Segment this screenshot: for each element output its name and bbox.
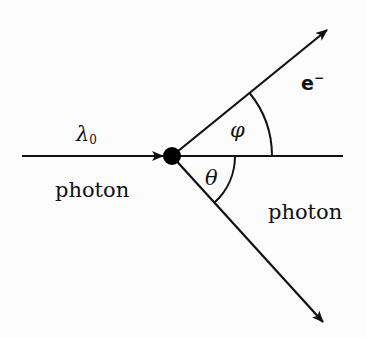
lambda-subscript: 0 [89, 133, 97, 147]
compton-scattering-diagram [0, 0, 366, 338]
theta-angle-label: θ [205, 168, 218, 189]
scattered-photon-line [172, 156, 323, 322]
phi-angle-label: φ [230, 120, 245, 141]
electron-symbol: e [301, 72, 314, 94]
incident-photon-label: photon [55, 180, 129, 201]
electron-label: e− [301, 72, 324, 93]
vertex-electron-dot [163, 147, 181, 165]
scattered-photon-label: photon [268, 202, 342, 223]
electron-charge: − [314, 71, 324, 85]
phi-angle-arc [250, 93, 272, 156]
incident-wavelength-label: λ0 [76, 124, 97, 146]
lambda-symbol: λ [76, 122, 89, 146]
